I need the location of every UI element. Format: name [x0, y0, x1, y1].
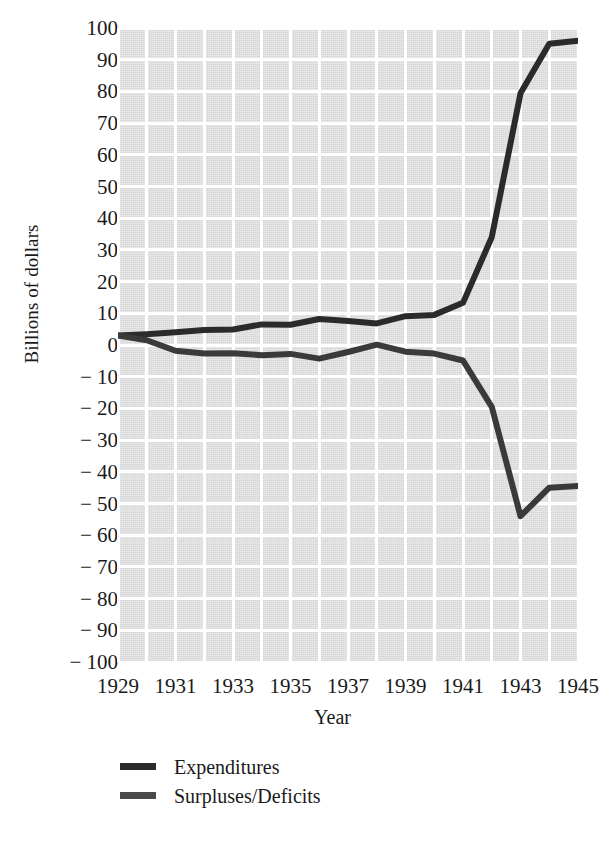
y-tick-label: − 70 [80, 556, 118, 578]
x-axis-title-text: Year [314, 706, 351, 729]
y-tick-label: 90 [97, 49, 118, 71]
y-tick-label: 40 [97, 207, 118, 229]
y-tick-label: 80 [97, 80, 118, 102]
chart-figure: Billions of dollars 10090807060504030201… [0, 0, 609, 841]
y-tick-label: − 30 [80, 429, 118, 451]
x-tick-label: 1945 [538, 672, 609, 700]
y-tick-label: 60 [97, 144, 118, 166]
y-tick-label: − 20 [80, 397, 118, 419]
y-tick-label: − 50 [80, 493, 118, 515]
y-tick-label: 100 [87, 17, 119, 39]
x-axis-tick-labels: 192919311933193519371939194119431945 [0, 672, 609, 702]
x-axis-title: Year [0, 706, 609, 729]
chart-legend: ExpendituresSurpluses/Deficits [120, 752, 540, 810]
y-tick-label: − 60 [80, 524, 118, 546]
y-tick-label: 30 [97, 239, 118, 261]
legend-swatch-icon [120, 763, 156, 770]
y-tick-label: 10 [97, 302, 118, 324]
y-tick-label: 50 [97, 176, 118, 198]
line-expenditures [118, 41, 578, 336]
legend-label: Expenditures [174, 756, 280, 778]
legend-label: Surpluses/Deficits [174, 785, 321, 807]
y-tick-label: 20 [97, 271, 118, 293]
data-lines [118, 28, 578, 662]
y-tick-label: − 10 [80, 366, 118, 388]
y-tick-label: − 40 [80, 461, 118, 483]
y-axis-tick-labels: 1009080706050403020100− 10− 20− 30− 40− … [18, 0, 118, 700]
legend-item: Surpluses/Deficits [120, 781, 540, 810]
plot-area [118, 28, 578, 662]
y-tick-label: 70 [97, 112, 118, 134]
legend-item: Expenditures [120, 752, 540, 781]
line-surpluses-deficits [118, 335, 578, 516]
y-tick-label: − 80 [80, 588, 118, 610]
y-tick-label: − 100 [69, 651, 118, 673]
legend-swatch-icon [120, 792, 156, 799]
y-tick-label: − 90 [80, 619, 118, 641]
